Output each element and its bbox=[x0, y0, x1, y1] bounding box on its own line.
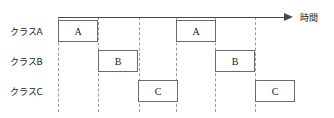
time-axis-label: 時間 bbox=[300, 11, 318, 24]
execution-block-class-a-0: A bbox=[58, 20, 98, 42]
execution-block-class-c-1: C bbox=[255, 80, 295, 102]
timing-diagram: 時間 クラスAAAクラスBBBクラスCCC bbox=[0, 0, 334, 118]
row-label-class-a: クラスA bbox=[10, 25, 56, 38]
execution-block-class-a-1: A bbox=[176, 20, 216, 42]
execution-block-class-b-1: B bbox=[215, 50, 255, 72]
row-label-class-b: クラスB bbox=[10, 55, 56, 68]
right-arrow-icon bbox=[284, 13, 293, 21]
row-label-class-c: クラスC bbox=[10, 85, 56, 98]
execution-block-class-c-0: C bbox=[138, 80, 178, 102]
execution-block-class-b-0: B bbox=[98, 50, 138, 72]
time-axis-line bbox=[58, 17, 290, 18]
